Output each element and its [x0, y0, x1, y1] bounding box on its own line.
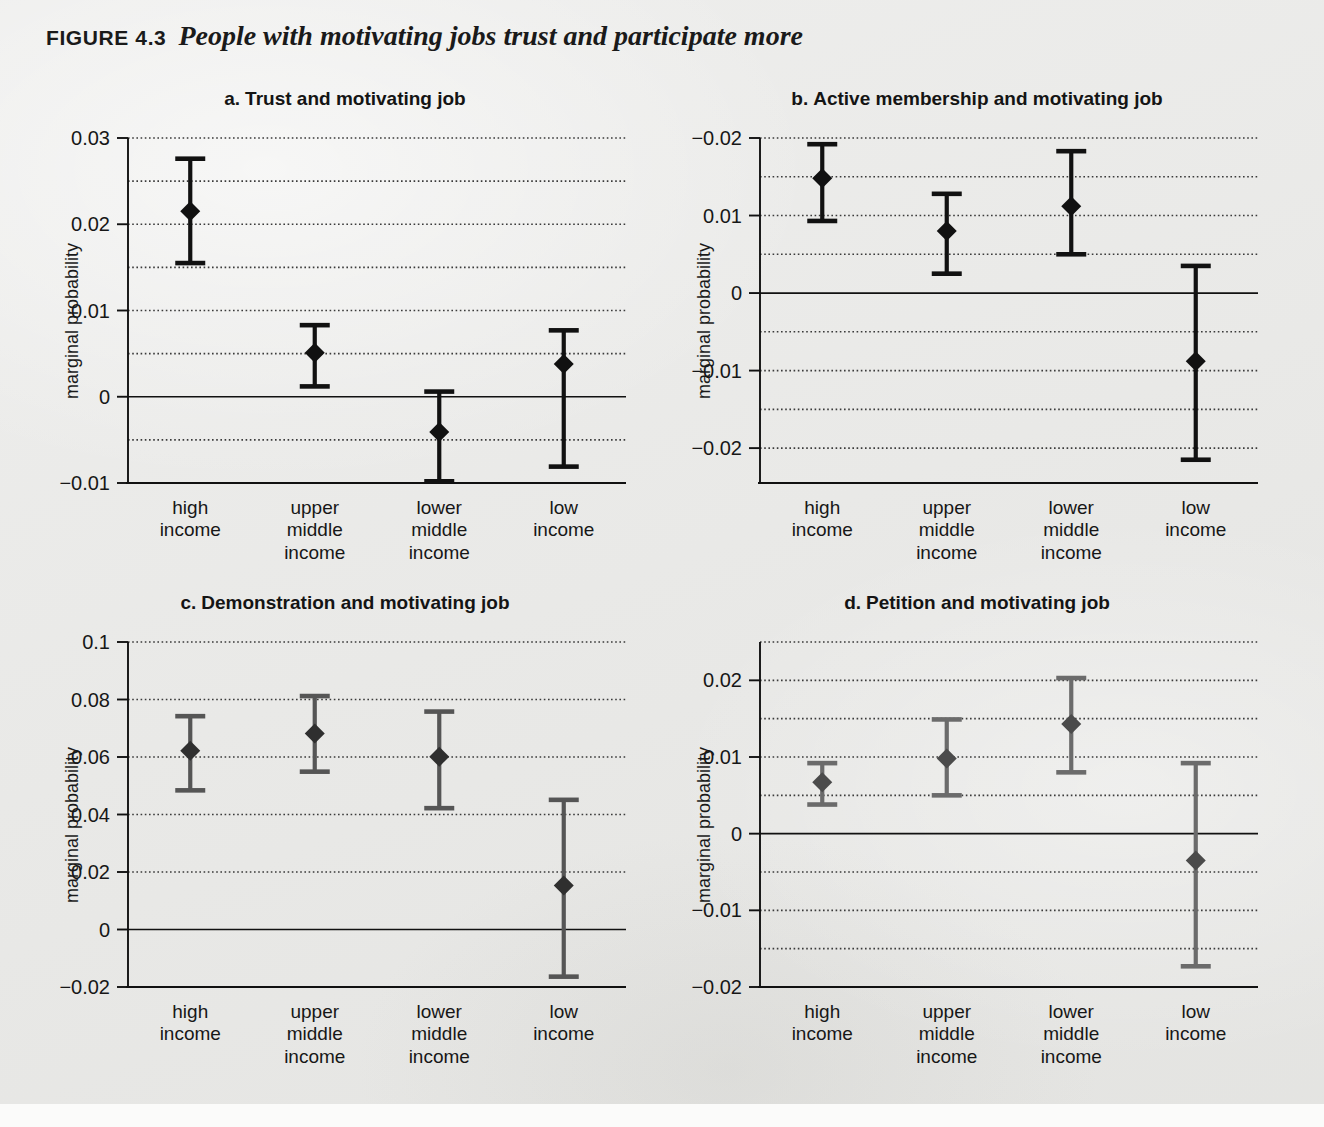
- y-tick-label: −0.02: [672, 127, 742, 150]
- marker-diamond: [937, 221, 957, 241]
- marker-diamond: [812, 772, 832, 792]
- x-tick-label-line: income: [494, 1023, 634, 1045]
- x-tick-label: lowermiddleincome: [369, 1001, 509, 1068]
- y-tick-label: 0.01: [672, 746, 742, 769]
- x-tick-label-line: income: [369, 1046, 509, 1068]
- x-tick-label: uppermiddleincome: [245, 1001, 385, 1068]
- y-tick-label: 0: [40, 918, 110, 941]
- x-tick-label-line: upper: [245, 497, 385, 519]
- x-tick-label-line: lower: [1001, 497, 1141, 519]
- panel-d: d.Petition and motivating job marginal p…: [672, 592, 1282, 1092]
- data-point-group: [424, 712, 454, 809]
- x-tick-label: highincome: [752, 1001, 892, 1046]
- data-point-group: [300, 696, 330, 772]
- panel-b: b.Active membership and motivating job m…: [672, 88, 1282, 588]
- data-point-group: [807, 763, 837, 804]
- y-tick-label: −0.01: [672, 359, 742, 382]
- x-tick-label: uppermiddleincome: [245, 497, 385, 564]
- x-tick-label-line: high: [120, 497, 260, 519]
- x-tick-label-line: low: [494, 1001, 634, 1023]
- x-tick-label-line: low: [1126, 497, 1266, 519]
- x-tick-label-line: high: [120, 1001, 260, 1023]
- data-point-group: [932, 194, 962, 274]
- x-tick-label-line: income: [1001, 542, 1141, 564]
- marker-diamond: [554, 876, 574, 896]
- x-tick-label: highincome: [120, 1001, 260, 1046]
- y-tick-label: 0: [672, 282, 742, 305]
- x-tick-label-line: income: [1126, 1023, 1266, 1045]
- plot-area: [672, 592, 1282, 1052]
- x-tick-label-line: middle: [369, 1023, 509, 1045]
- x-tick-label: highincome: [120, 497, 260, 542]
- x-tick-label-line: high: [752, 1001, 892, 1023]
- marker-diamond: [429, 422, 449, 442]
- x-tick-label-line: income: [120, 1023, 260, 1045]
- y-tick-label: 0.08: [40, 688, 110, 711]
- data-point-group: [1181, 266, 1211, 460]
- y-tick-label: 0.02: [40, 861, 110, 884]
- marker-diamond: [180, 201, 200, 221]
- marker-diamond: [937, 749, 957, 769]
- x-tick-label-line: low: [494, 497, 634, 519]
- data-point-group: [932, 719, 962, 795]
- x-tick-label: lowincome: [1126, 1001, 1266, 1046]
- x-tick-label-line: high: [752, 497, 892, 519]
- y-tick-label: −0.02: [672, 437, 742, 460]
- x-tick-label-line: lower: [369, 1001, 509, 1023]
- y-tick-label: 0.01: [40, 299, 110, 322]
- y-tick-label: 0.06: [40, 746, 110, 769]
- panel-a: a.Trust and motivating job marginal prob…: [40, 88, 650, 588]
- x-tick-label-line: middle: [245, 1023, 385, 1045]
- marker-diamond: [1186, 351, 1206, 371]
- data-point-group: [300, 325, 330, 386]
- marker-diamond: [812, 168, 832, 188]
- x-tick-label-line: upper: [245, 1001, 385, 1023]
- y-tick-label: 0.03: [40, 127, 110, 150]
- marker-diamond: [1061, 714, 1081, 734]
- y-tick-label: 0.02: [40, 213, 110, 236]
- x-tick-label-line: lower: [369, 497, 509, 519]
- figure-caption: FIGURE 4.3People with motivating jobs tr…: [46, 20, 1246, 62]
- marker-diamond: [1061, 196, 1081, 216]
- panel-c: c.Demonstration and motivating job margi…: [40, 592, 650, 1092]
- y-tick-label: −0.01: [40, 472, 110, 495]
- marker-diamond: [554, 354, 574, 374]
- x-tick-label-line: middle: [1001, 1023, 1141, 1045]
- figure-title-text: People with motivating jobs trust and pa…: [178, 20, 803, 51]
- x-tick-label: uppermiddleincome: [877, 1001, 1017, 1068]
- data-point-group: [1181, 763, 1211, 966]
- x-tick-label: lowermiddleincome: [1001, 497, 1141, 564]
- data-point-group: [175, 159, 205, 263]
- x-tick-label-line: income: [120, 519, 260, 541]
- data-point-group: [1056, 678, 1086, 772]
- x-tick-label-line: upper: [877, 1001, 1017, 1023]
- x-tick-label-line: income: [369, 542, 509, 564]
- y-tick-label: −0.02: [672, 976, 742, 999]
- plot-area: [40, 592, 650, 1052]
- y-tick-label: 0.1: [40, 631, 110, 654]
- marker-diamond: [429, 747, 449, 767]
- y-tick-label: 0.02: [672, 669, 742, 692]
- x-tick-label: lowermiddleincome: [1001, 1001, 1141, 1068]
- figure-number: FIGURE 4.3: [46, 26, 166, 49]
- y-tick-label: 0.04: [40, 803, 110, 826]
- x-tick-label-line: income: [752, 519, 892, 541]
- data-point-group: [424, 392, 454, 482]
- marker-diamond: [1186, 851, 1206, 871]
- x-tick-label-line: low: [1126, 1001, 1266, 1023]
- data-point-group: [549, 330, 579, 466]
- y-tick-label: 0: [672, 822, 742, 845]
- x-tick-label: highincome: [752, 497, 892, 542]
- x-tick-label-line: income: [245, 1046, 385, 1068]
- x-tick-label-line: income: [245, 542, 385, 564]
- x-tick-label: lowincome: [494, 497, 634, 542]
- marker-diamond: [305, 343, 325, 363]
- x-tick-label-line: income: [494, 519, 634, 541]
- x-tick-label-line: income: [1126, 519, 1266, 541]
- x-tick-label-line: upper: [877, 497, 1017, 519]
- plot-area: [672, 88, 1282, 548]
- x-tick-label-line: middle: [877, 519, 1017, 541]
- x-tick-label-line: lower: [1001, 1001, 1141, 1023]
- x-tick-label: uppermiddleincome: [877, 497, 1017, 564]
- plot-area: [40, 88, 650, 548]
